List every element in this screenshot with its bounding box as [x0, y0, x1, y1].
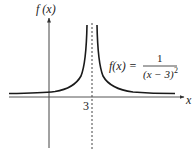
equation-lhs: f(x) = [109, 59, 137, 73]
equation-numerator: 1 [157, 52, 163, 64]
function-graph: f (x) x 3 f(x) = 1 (x − 3) 2 [0, 0, 196, 153]
x-tick-3: 3 [83, 99, 89, 113]
equation-denominator: (x − 3) [143, 68, 174, 81]
x-axis-label: x [185, 93, 192, 107]
y-axis-label: f (x) [36, 2, 56, 16]
equation-exponent: 2 [174, 66, 178, 75]
function-equation: f(x) = 1 (x − 3) 2 [109, 52, 178, 81]
curve-left-branch [9, 25, 87, 94]
